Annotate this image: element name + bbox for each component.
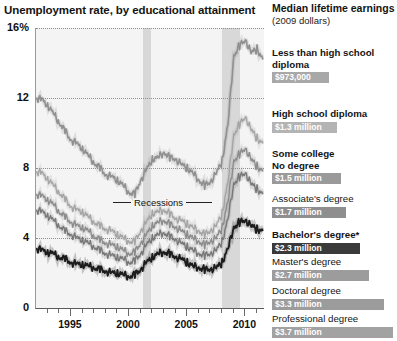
recessions-annotation: Recessions [113, 196, 212, 208]
earnings-bar: $3.7 million [272, 327, 393, 338]
leader-line-left [113, 202, 131, 203]
x-tick-label-2010: 2010 [233, 318, 256, 330]
earnings-item-doctoral-degree: Doctoral degree$3.3 million [272, 285, 397, 310]
x-tick-2004 [175, 309, 176, 313]
x-tick-1993 [47, 309, 48, 313]
earnings-label: High school diploma [272, 108, 397, 120]
earnings-bar: $2.7 million [272, 270, 369, 281]
x-tick-label-2000: 2000 [116, 318, 139, 330]
recessions-label: Recessions [134, 197, 183, 208]
x-tick-1998 [105, 309, 106, 313]
x-tick-2009 [233, 309, 234, 313]
x-tick-2010 [244, 309, 245, 316]
x-tick-2011 [256, 309, 257, 313]
y-tick-label-16: 16% [3, 21, 29, 33]
leader-line-right [186, 202, 212, 203]
earnings-item-less-than-high-school: Less than high school diploma$973,000 [272, 47, 397, 83]
x-tick-1994 [58, 309, 59, 313]
earnings-bar: $1.3 million [272, 122, 337, 133]
x-tick-2007 [209, 309, 210, 313]
earnings-label: Professional degree [272, 313, 397, 325]
earnings-label: Some college No degree [272, 148, 397, 171]
x-tick-2005 [186, 309, 187, 316]
y-tick-label-0: 0 [3, 301, 29, 313]
earnings-label: Doctoral degree [272, 285, 397, 297]
y-tick-label-12: 12 [3, 91, 29, 103]
x-tick-2002 [151, 309, 152, 313]
earnings-panel: Median lifetime earnings (2009 dollars) … [272, 2, 395, 341]
chart-plot-area [35, 28, 264, 309]
earnings-item-master-s-degree: Master's degree$2.7 million [272, 256, 397, 281]
earnings-bar: $973,000 [272, 72, 329, 83]
x-tick-2001 [140, 309, 141, 313]
x-tick-2003 [163, 309, 164, 313]
y-tick-label-8: 8 [3, 161, 29, 173]
x-tick-1995 [70, 309, 71, 316]
earnings-panel-subheading: (2009 dollars) [272, 15, 395, 27]
earnings-bar: $1.5 million [272, 173, 341, 184]
x-tick-label-1995: 1995 [58, 318, 81, 330]
earnings-bar: $2.3 million [272, 243, 360, 254]
earnings-panel-heading: Median lifetime earnings [272, 2, 395, 14]
plot-clip [36, 28, 264, 308]
x-tick-2000 [128, 309, 129, 316]
x-tick-1999 [116, 309, 117, 313]
earnings-label: Associate's degree [272, 193, 397, 205]
earnings-item-professional-degree: Professional degree$3.7 million [272, 313, 397, 338]
x-tick-2008 [221, 309, 222, 313]
series-lines [36, 28, 264, 308]
x-tick-1996 [82, 309, 83, 313]
earnings-label: Bachelor's degree* [272, 229, 397, 241]
earnings-bar: $1.7 million [272, 207, 346, 218]
earnings-label: Master's degree [272, 256, 397, 268]
x-tick-label-2005: 2005 [175, 318, 198, 330]
earnings-item-high-school-diploma: High school diploma$1.3 million [272, 108, 397, 133]
page-title: Unemployment rate, by educational attain… [4, 3, 262, 17]
y-tick-label-4: 4 [3, 231, 29, 243]
earnings-label: Less than high school diploma [272, 47, 397, 70]
earnings-item-some-college: Some college No degree$1.5 million [272, 148, 397, 184]
earnings-bar: $3.3 million [272, 299, 384, 310]
earnings-item-associate-s-degree: Associate's degree$1.7 million [272, 193, 397, 218]
x-tick-2006 [198, 309, 199, 313]
x-tick-1997 [93, 309, 94, 313]
earnings-item-bachelor-s-degree: Bachelor's degree*$2.3 million [272, 229, 397, 254]
x-axis: 1995200020052010 [35, 309, 264, 341]
